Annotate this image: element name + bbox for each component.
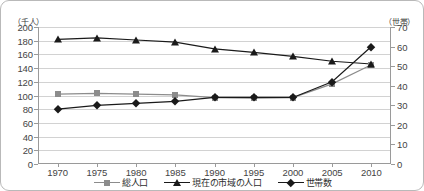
x-axis-tickmark [97, 164, 98, 167]
x-axis-tickmark [175, 164, 176, 167]
left-axis-tickmark [34, 164, 38, 165]
triangle-marker [54, 36, 62, 43]
x-axis-tickmark [332, 164, 333, 167]
right-axis-tickmark [391, 105, 395, 106]
left-axis-tick: 120 [9, 76, 33, 87]
triangle-marker [328, 58, 336, 65]
right-axis-tickmark [391, 144, 395, 145]
x-axis-tickmark [136, 164, 137, 167]
x-axis-tickmark [254, 164, 255, 167]
legend-diamond-marker [287, 179, 295, 187]
chart-canvas: （千人） （世帯） 200180160140120100806040200 70… [1, 1, 424, 191]
square-marker [133, 91, 139, 97]
right-axis-tick: 70 [397, 22, 421, 33]
left-axis-tick: 100 [9, 90, 33, 101]
left-axis-tick: 140 [9, 63, 33, 74]
legend-label: 世帯数 [306, 176, 332, 189]
x-axis-tickmark [371, 164, 372, 167]
legend-square-marker [104, 180, 110, 186]
triangle-marker [250, 49, 258, 56]
x-axis-tickmark [58, 164, 59, 167]
legend-item[interactable]: 世帯数 [278, 176, 332, 189]
x-axis-tickmark [293, 164, 294, 167]
right-axis-tick: 50 [397, 61, 421, 72]
legend-item[interactable]: 総人口 [94, 176, 148, 189]
triangle-marker [171, 39, 179, 46]
right-axis-tick: 0 [397, 159, 421, 170]
right-axis-tickmark [391, 66, 395, 67]
right-axis-tick: 20 [397, 119, 421, 130]
square-marker [94, 90, 100, 96]
left-axis-tick: 0 [9, 159, 33, 170]
chart-legend: 総人口現在の市域の人口世帯数 [1, 176, 424, 189]
triangle-marker [211, 45, 219, 52]
chart-frame: （千人） （世帯） 200180160140120100806040200 70… [0, 0, 424, 191]
legend-label: 総人口 [122, 176, 148, 189]
square-marker [55, 91, 61, 97]
left-axis-tick: 40 [9, 131, 33, 142]
right-axis-tick: 40 [397, 80, 421, 91]
right-axis-tickmark [391, 164, 395, 165]
right-axis-tickmark [391, 47, 395, 48]
legend-line-swatch [94, 178, 120, 187]
triangle-marker [367, 60, 375, 67]
left-axis-tick: 200 [9, 22, 33, 33]
left-axis-tick: 20 [9, 145, 33, 156]
legend-triangle-marker [173, 179, 181, 186]
left-axis-tick: 60 [9, 117, 33, 128]
x-axis-tickmark [215, 164, 216, 167]
left-axis-tick: 180 [9, 35, 33, 46]
legend-line-swatch [164, 178, 190, 187]
legend-line-swatch [278, 178, 304, 187]
legend-item[interactable]: 現在の市域の人口 [164, 176, 262, 189]
triangle-marker [132, 37, 140, 44]
left-axis-tick: 80 [9, 104, 33, 115]
left-axis-tick: 160 [9, 49, 33, 60]
right-axis-tickmark [391, 125, 395, 126]
triangle-marker [289, 53, 297, 60]
right-axis-tick: 60 [397, 41, 421, 52]
right-axis-tickmark [391, 27, 395, 28]
triangle-marker [93, 34, 101, 41]
right-axis-tick: 10 [397, 139, 421, 150]
legend-label: 現在の市域の人口 [192, 176, 262, 189]
right-axis-tickmark [391, 86, 395, 87]
right-axis-tick: 30 [397, 100, 421, 111]
plot-area [38, 27, 391, 164]
